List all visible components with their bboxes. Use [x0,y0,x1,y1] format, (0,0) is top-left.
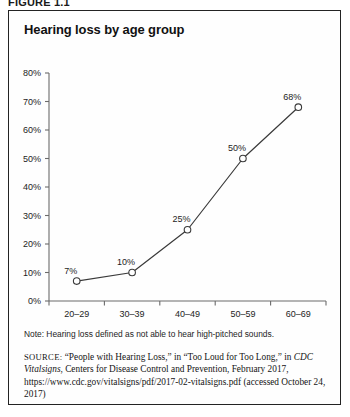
data-line [77,107,299,281]
source-label: SOURCE: [24,352,62,362]
x-axis-tick-label-unit: years [176,320,199,322]
data-point-marker [73,278,80,285]
x-axis-tick-label-unit: years [121,320,144,322]
y-axis-labels: 0%10%20%30%40%50%60%70%80% [23,68,41,306]
x-axis-tick-label-range: 60–69 [286,309,311,319]
x-axis-tick-label-range: 30–39 [120,309,145,319]
y-axis-tick-label: 50% [23,154,41,164]
y-axis-ticks [45,73,49,301]
data-point-marker [184,226,191,233]
data-point-label: 7% [64,266,77,276]
chart-note: Note: Hearing loss defined as not able t… [24,329,329,340]
data-point-marker [240,155,247,162]
data-point-marker [295,104,302,111]
data-markers [73,104,301,284]
y-axis-tick-label: 40% [23,182,41,192]
x-axis-labels: 20–29years30–39years40–49years50–59years… [64,309,311,321]
chart-svg: 7%10%25%50%68% 20–29years30–39years40–49… [9,49,340,321]
y-axis-tick-label: 20% [23,239,41,249]
x-axis-tick-label-unit: years [232,320,255,322]
data-point-label: 25% [172,214,190,224]
data-point-marker [129,269,136,276]
line-chart: 7%10%25%50%68% 20–29years30–39years40–49… [9,49,340,321]
y-axis-tick-label: 0% [28,296,41,306]
x-axis-tick-label-range: 50–59 [230,309,255,319]
source-text-part1: “People with Hearing Loss,” in “Too Loud… [62,352,293,362]
data-point-label: 50% [228,143,246,153]
x-axis-tick-label-range: 40–49 [175,309,200,319]
data-point-labels: 7%10%25%50%68% [64,92,301,276]
chart-title: Hearing loss by age group [24,22,184,37]
figure-box: Hearing loss by age group 7%10%25%50%68%… [8,10,341,405]
y-axis-tick-label: 80% [23,68,41,78]
source-citation: SOURCE: “People with Hearing Loss,” in “… [24,351,330,401]
y-axis-tick-label: 30% [23,211,41,221]
x-axis-tick-label-unit: years [287,320,310,322]
data-point-label: 10% [117,257,135,267]
x-axis-tick-label-unit: years [66,320,89,322]
data-point-label: 68% [283,92,301,102]
figure-label: FIGURE 1.1 [8,0,70,8]
y-axis-tick-label: 10% [23,268,41,278]
y-axis-tick-label: 60% [23,125,41,135]
y-axis-tick-label: 70% [23,97,41,107]
source-text-part2: , Centers for Disease Control and Preven… [24,364,325,399]
x-axis-ticks [49,301,326,306]
x-axis-tick-label-range: 20–29 [64,309,89,319]
